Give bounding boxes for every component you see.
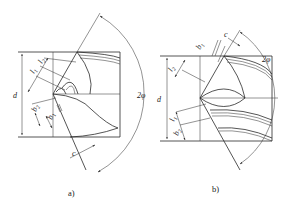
label-angle-b: 2φ	[262, 55, 271, 64]
label-l2-b: l2	[166, 64, 177, 74]
caption-a: a)	[68, 188, 75, 198]
label-b2: b2	[29, 103, 41, 113]
label-c-b: c	[224, 30, 228, 39]
label-d: d	[13, 91, 18, 100]
panel-a: d l1 l2 b2 b1 c 2φ a)	[13, 13, 146, 198]
label-c: c	[72, 149, 76, 158]
label-angle: 2φ	[137, 91, 146, 100]
label-l1: l1	[28, 66, 39, 76]
drill-point-diagram: d l1 l2 b2 b1 c 2φ a)	[0, 0, 287, 212]
panel-b: d l2 b1 l1 b2 c 2φ b)	[157, 30, 278, 194]
caption-b: b)	[212, 184, 219, 194]
label-b1-b: b1	[194, 40, 206, 51]
label-l1-b: l1	[167, 115, 178, 123]
label-b1: b1	[45, 111, 57, 121]
label-d-b: d	[157, 95, 162, 104]
label-l2: l2	[36, 56, 47, 66]
